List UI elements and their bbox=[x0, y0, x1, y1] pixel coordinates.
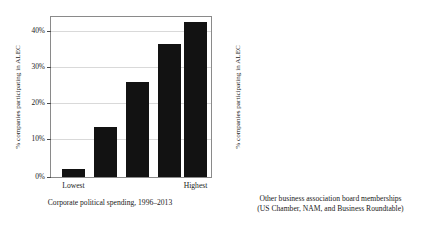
right-chart-panel: % companies participating in ALEC 100% 8… bbox=[220, 0, 441, 228]
two-panel-bar-chart-figure: % companies participating in ALEC 40% 30… bbox=[0, 0, 441, 228]
right-y-axis-title: % companies participating in ALEC bbox=[234, 12, 248, 182]
left-ticklabel-30: 30% bbox=[31, 64, 45, 71]
left-ticklabel-20: 20% bbox=[31, 100, 45, 107]
left-ticklabel-40: 40% bbox=[31, 28, 45, 35]
left-chart-caption: Corporate political spending, 1996–2013 bbox=[0, 198, 220, 208]
left-ticklabel-0: 0% bbox=[35, 174, 45, 181]
left-x-axis-labels: Lowest Highest bbox=[51, 17, 211, 177]
left-ticklabel-10: 10% bbox=[31, 136, 45, 143]
right-caption-line1: Other business association board members… bbox=[220, 194, 441, 204]
left-y-axis-title: % companies participating in ALEC bbox=[14, 12, 28, 182]
left-tickmark-0 bbox=[47, 177, 51, 178]
left-xticklabel-highest: Highest bbox=[184, 181, 208, 190]
right-caption-line2: (US Chamber, NAM, and Business Roundtabl… bbox=[220, 204, 441, 214]
left-plot-area: 40% 30% 20% 10% 0% Lowest Highest bbox=[50, 16, 212, 178]
left-xticklabel-lowest: Lowest bbox=[62, 181, 84, 190]
left-chart-panel: % companies participating in ALEC 40% 30… bbox=[0, 0, 220, 228]
right-chart-caption: Other business association board members… bbox=[220, 194, 441, 214]
